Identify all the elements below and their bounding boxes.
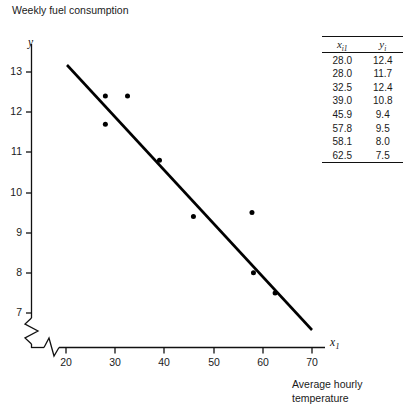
table-cell-x: 62.5: [322, 148, 363, 162]
data-table: xi1 yi 28.012.428.011.732.512.439.010.84…: [322, 36, 403, 163]
data-point: [191, 214, 196, 219]
table-row: 57.89.5: [322, 121, 403, 135]
table-row: 39.010.8: [322, 94, 403, 108]
data-point: [125, 94, 130, 99]
data-table-body: 28.012.428.011.732.512.439.010.845.99.45…: [322, 53, 403, 163]
x-tick-label-70: 70: [301, 356, 323, 368]
table-cell-x: 45.9: [322, 108, 363, 122]
x-tick-label-50: 50: [203, 356, 225, 368]
y-tick-label-11: 11: [2, 145, 22, 157]
y-axis-break-icon: [25, 318, 38, 344]
y-tick-label-12: 12: [2, 105, 22, 117]
table-cell-x: 28.0: [322, 67, 363, 81]
table-row: 28.012.4: [322, 53, 403, 67]
least-squares-line: [67, 65, 312, 330]
data-point: [273, 290, 278, 295]
figure-root: Weekly fuel consumption Average hourly t…: [0, 0, 403, 415]
x-tick-label-40: 40: [153, 356, 175, 368]
column-header-x-subscript: i1: [342, 44, 348, 53]
table-row: 45.99.4: [322, 108, 403, 122]
table-row: 62.57.5: [322, 148, 403, 162]
column-header-x: xi1: [322, 37, 363, 53]
table-cell-x: 58.1: [322, 135, 363, 149]
data-table-head: xi1 yi: [322, 37, 403, 53]
table-row: 32.512.4: [322, 80, 403, 94]
y-tick-label-9: 9: [2, 226, 22, 238]
y-tick-label-7: 7: [2, 306, 22, 318]
table-row: 58.18.0: [322, 135, 403, 149]
table-cell-y: 10.8: [363, 94, 403, 108]
table-row: 28.011.7: [322, 67, 403, 81]
table-cell-x: 28.0: [322, 53, 363, 67]
x-tick-label-60: 60: [252, 356, 274, 368]
y-tick-label-8: 8: [2, 266, 22, 278]
data-point: [249, 210, 254, 215]
data-point: [103, 122, 108, 127]
x-tick-label-20: 20: [55, 356, 77, 368]
x-tick-label-30: 30: [104, 356, 126, 368]
table-cell-x: 32.5: [322, 80, 363, 94]
data-point: [103, 94, 108, 99]
table-cell-y: 12.4: [363, 53, 403, 67]
table-cell-x: 39.0: [322, 94, 363, 108]
table-cell-y: 8.0: [363, 135, 403, 149]
table-cell-y: 7.5: [363, 148, 403, 162]
column-header-y: yi: [363, 37, 403, 53]
y-tick-label-13: 13: [2, 65, 22, 77]
column-header-y-subscript: i: [384, 44, 386, 53]
table-cell-x: 57.8: [322, 121, 363, 135]
x-axis-break-icon: [44, 338, 59, 356]
table-cell-y: 12.4: [363, 80, 403, 94]
y-tick-label-10: 10: [2, 186, 22, 198]
table-cell-y: 9.4: [363, 108, 403, 122]
table-header-row: xi1 yi: [322, 37, 403, 53]
axes-group: [25, 44, 325, 356]
table-cell-y: 9.5: [363, 121, 403, 135]
data-point: [157, 158, 162, 163]
tick-marks-group: [26, 72, 312, 354]
data-point: [251, 270, 256, 275]
table-cell-y: 11.7: [363, 67, 403, 81]
